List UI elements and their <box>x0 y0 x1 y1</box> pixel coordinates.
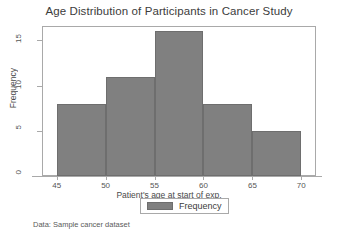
histogram-bar <box>252 131 301 176</box>
histogram-bar <box>155 31 204 176</box>
y-axis-tick <box>37 131 42 132</box>
y-axis-title: Frequency <box>8 68 18 108</box>
x-axis-tick <box>252 176 253 180</box>
x-axis-tick <box>203 176 204 180</box>
x-axis-line <box>32 176 322 177</box>
histogram-chart: Age Distribution of Participants in Canc… <box>0 0 338 237</box>
legend: Frequency <box>140 198 229 214</box>
bars-layer <box>42 26 316 176</box>
histogram-bar <box>57 104 106 176</box>
chart-footnote: Data: Sample cancer dataset <box>33 220 130 229</box>
y-axis-tick-label: 15 <box>14 34 28 43</box>
y-axis-tick-label: 5 <box>14 125 28 129</box>
legend-label-frequency: Frequency <box>179 201 222 211</box>
x-axis-tick <box>106 176 107 180</box>
x-axis-tick <box>301 176 302 180</box>
y-axis-tick-label: 0 <box>14 170 28 174</box>
y-axis-tick <box>37 86 42 87</box>
y-axis-line <box>42 26 43 176</box>
histogram-bar <box>106 77 155 176</box>
x-axis-tick <box>155 176 156 180</box>
chart-title: Age Distribution of Participants in Canc… <box>0 4 338 18</box>
x-axis-tick <box>57 176 58 180</box>
histogram-bar <box>203 104 252 176</box>
y-axis-tick <box>37 40 42 41</box>
legend-swatch-frequency <box>147 202 173 210</box>
